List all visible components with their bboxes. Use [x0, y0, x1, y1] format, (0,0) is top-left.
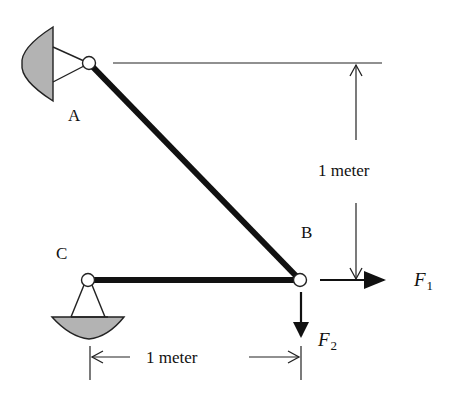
member-ab: [89, 63, 300, 280]
truss-diagram: [0, 0, 461, 402]
label-horizontal-dimension: 1 meter: [146, 349, 197, 366]
node-a: [83, 57, 96, 70]
label-node-a: A: [68, 107, 80, 124]
label-force-f1: F1: [414, 270, 433, 292]
node-b: [294, 274, 307, 287]
support-c-base: [52, 317, 124, 339]
label-node-c: C: [56, 245, 67, 262]
support-c: [52, 285, 124, 339]
force-f1-subscript: 1: [427, 278, 434, 293]
label-force-f2: F2: [318, 330, 337, 352]
node-c: [82, 274, 95, 287]
force-f2-subscript: 2: [331, 338, 338, 353]
support-a: [22, 27, 84, 101]
force-f1-name: F: [414, 269, 426, 290]
label-vertical-dimension: 1 meter: [318, 162, 369, 179]
force-f2-name: F: [318, 329, 330, 350]
label-node-b: B: [301, 224, 312, 241]
support-a-base: [22, 27, 53, 101]
